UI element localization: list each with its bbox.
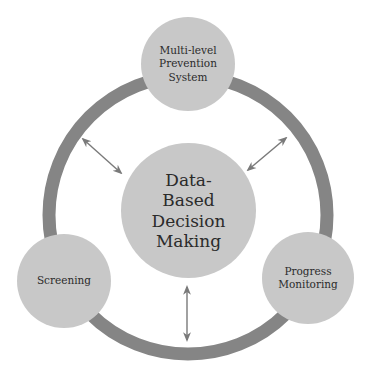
node-data-based-decision-making: Data- Based Decision Making [121, 143, 256, 278]
node-label: Progress Monitoring [278, 265, 338, 291]
arrow-upper-right [248, 138, 286, 170]
node-progress-monitoring: Progress Monitoring [262, 232, 354, 324]
node-multi-level-prevention-system: Multi-level Prevention System [141, 17, 235, 111]
node-label: Multi-level Prevention System [159, 44, 217, 83]
arrow-upper-left [83, 139, 121, 173]
node-label: Data- Based Decision Making [152, 170, 226, 252]
node-label: Screening [37, 274, 91, 287]
node-screening: Screening [17, 234, 111, 328]
